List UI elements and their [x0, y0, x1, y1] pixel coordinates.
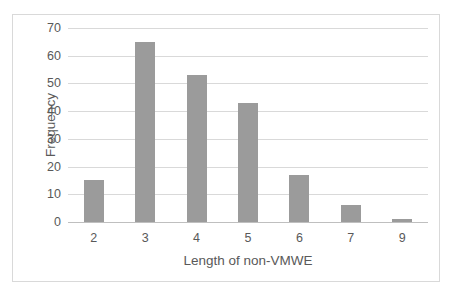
bar-slot: 4 — [171, 28, 222, 222]
y-axis-tick-label: 70 — [47, 21, 61, 35]
x-axis-title: Length of non-VMWE — [68, 253, 428, 268]
y-axis-tick-label: 20 — [47, 160, 61, 174]
y-axis-tick-label: 0 — [54, 215, 61, 229]
x-axis-tick-label: 3 — [142, 231, 149, 245]
y-axis-tick-label: 40 — [47, 104, 61, 118]
y-axis-tick-label: 10 — [47, 187, 61, 201]
bar-slot: 7 — [325, 28, 376, 222]
chart-frame: Frequency 010203040506070 2345679 Length… — [12, 14, 440, 282]
bar — [392, 219, 412, 222]
bar — [238, 103, 258, 222]
plot-area: 010203040506070 2345679 — [68, 28, 428, 222]
bar — [135, 42, 155, 222]
y-axis-tick-label: 50 — [47, 76, 61, 90]
x-axis-tick-label: 9 — [399, 231, 406, 245]
bar-series: 2345679 — [68, 28, 428, 222]
gridline — [68, 222, 428, 223]
x-axis-tick-label: 7 — [347, 231, 354, 245]
y-axis-tick-label: 30 — [47, 132, 61, 146]
x-axis-tick-label: 2 — [90, 231, 97, 245]
bar-slot: 5 — [222, 28, 273, 222]
bar — [341, 205, 361, 222]
y-axis-title-container: Frequency — [28, 28, 48, 222]
bar — [187, 75, 207, 222]
bar-slot: 2 — [68, 28, 119, 222]
bar — [289, 175, 309, 222]
x-axis-tick-label: 4 — [193, 231, 200, 245]
bar-slot: 3 — [119, 28, 170, 222]
x-axis-tick-label: 6 — [296, 231, 303, 245]
bar-slot: 9 — [377, 28, 428, 222]
y-axis-tick-label: 60 — [47, 49, 61, 63]
bar-slot: 6 — [274, 28, 325, 222]
x-axis-tick-label: 5 — [245, 231, 252, 245]
bar — [84, 180, 104, 222]
